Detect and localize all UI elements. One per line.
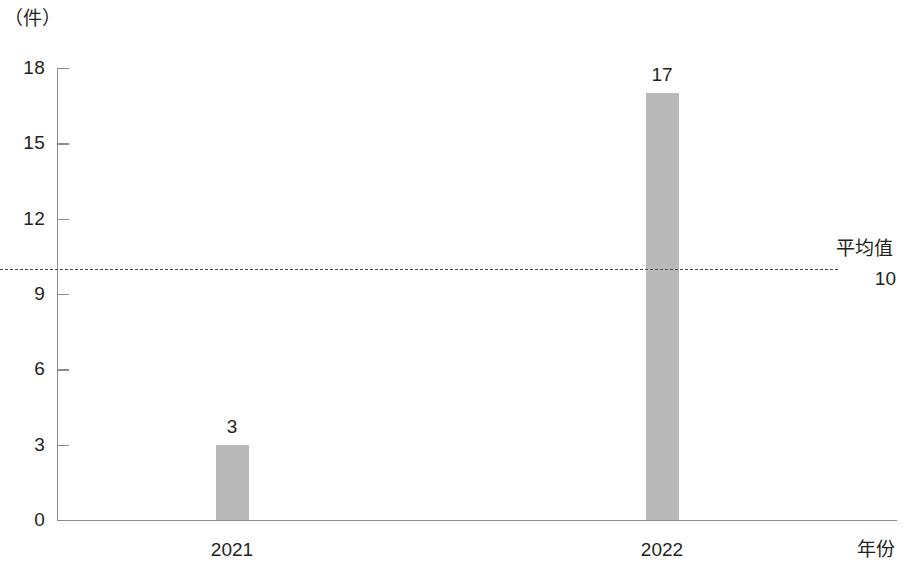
y-tick-label: 15 [1, 133, 45, 152]
y-tick-mark [58, 143, 69, 144]
y-tick-label: 12 [1, 209, 45, 228]
average-reference-line [0, 269, 838, 270]
y-tick-label: 9 [1, 284, 45, 303]
y-tick-label: 3 [1, 435, 45, 454]
y-axis-unit-label: （件） [4, 8, 61, 30]
y-tick-mark [58, 219, 69, 220]
x-axis-category-label: 2021 [172, 540, 292, 559]
y-tick-mark [58, 369, 69, 370]
x-axis-category-label: 2022 [602, 540, 722, 559]
bar [646, 93, 679, 520]
bar [216, 445, 249, 520]
bar-value-label: 17 [632, 65, 692, 84]
y-tick-label: 18 [1, 58, 45, 77]
y-tick-label: 6 [1, 359, 45, 378]
y-tick-label: 0 [1, 510, 45, 529]
average-line-value: 10 [836, 268, 896, 289]
y-tick-mark [58, 445, 69, 446]
average-line-label: 平均值 [836, 238, 893, 259]
x-axis-line [57, 520, 897, 521]
y-tick-mark [58, 68, 69, 69]
bar-chart: （件） 0369121518 32021172022 平均值 10 年份 [0, 0, 914, 562]
y-tick-mark [58, 294, 69, 295]
x-axis-title: 年份 [857, 540, 895, 559]
bar-value-label: 3 [202, 417, 262, 436]
